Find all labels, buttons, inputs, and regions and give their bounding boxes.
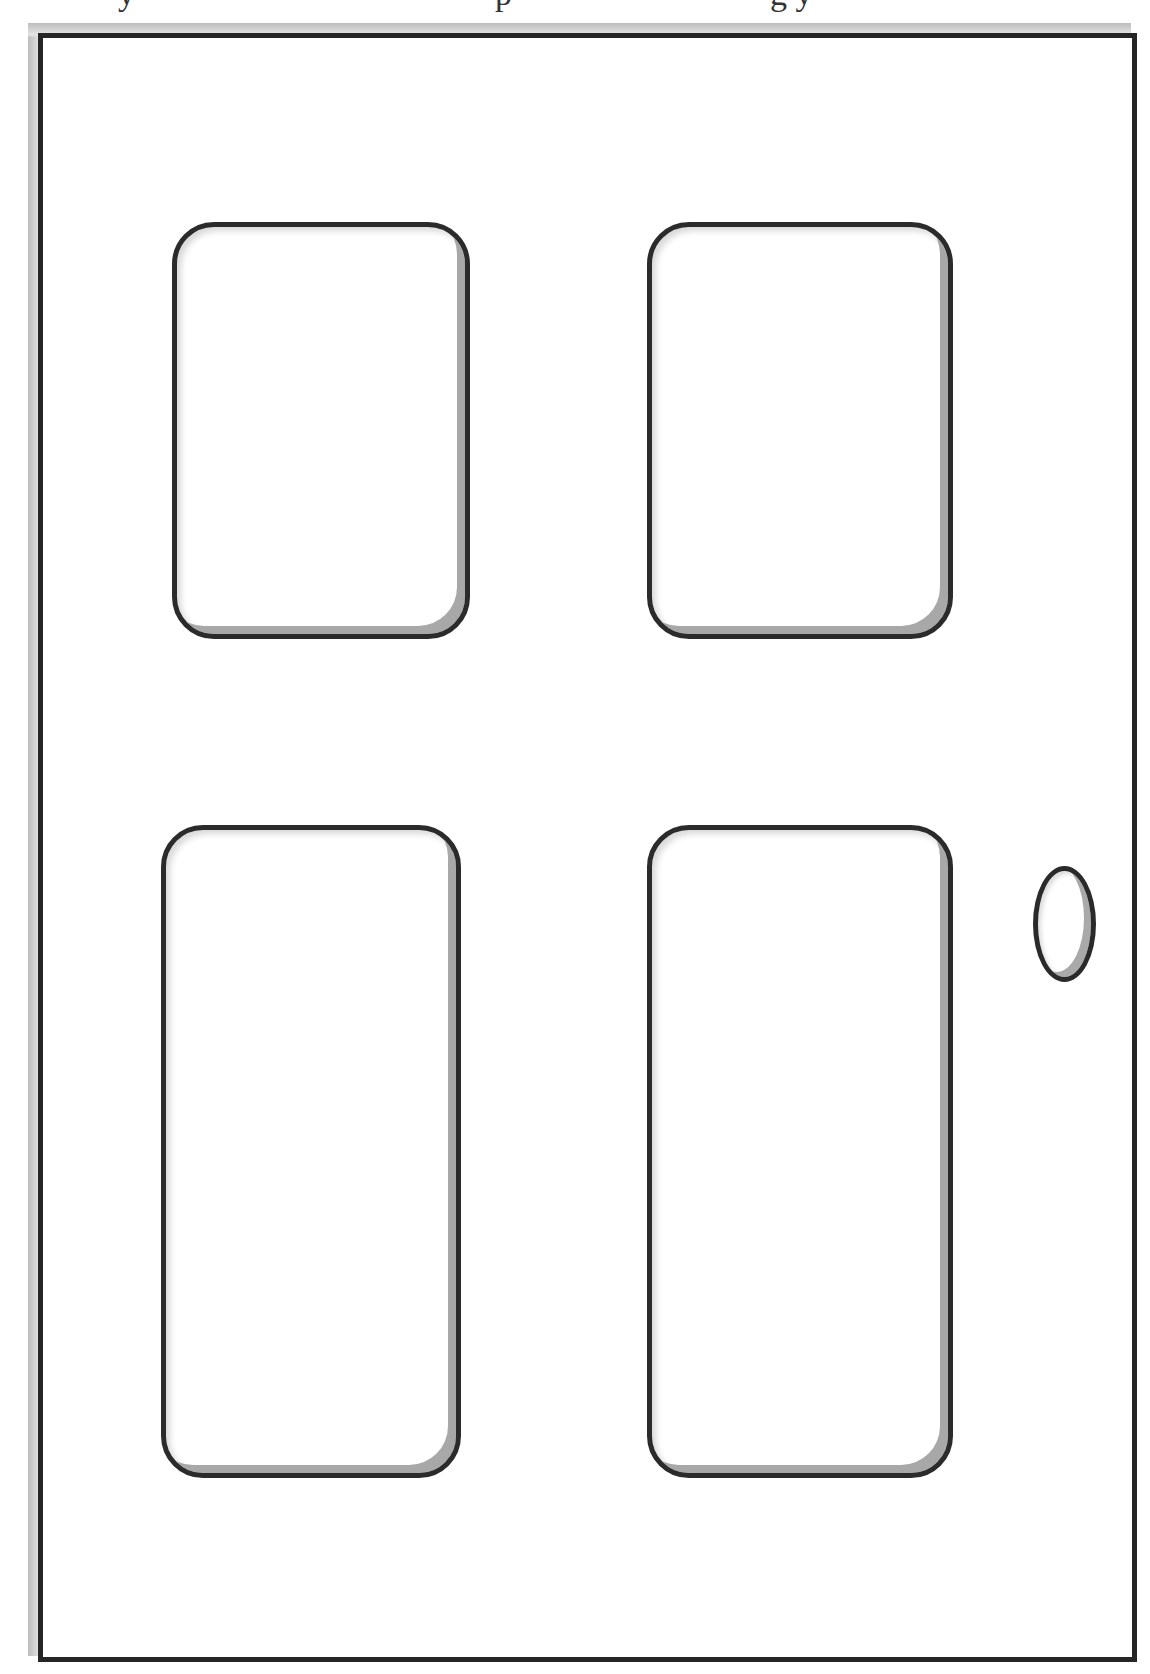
clipped-glyph: g y	[770, 0, 813, 14]
clipped-glyph: y	[118, 0, 135, 14]
door-panel-bottom-left	[161, 825, 461, 1478]
door-panel-top-right	[647, 222, 953, 639]
clipped-glyph: p	[495, 0, 512, 14]
clipped-text-line: y p g y	[0, 0, 1150, 14]
door-knob	[1033, 866, 1096, 982]
door-panel-bottom-right	[647, 825, 953, 1478]
door-panel-top-left	[172, 222, 470, 639]
